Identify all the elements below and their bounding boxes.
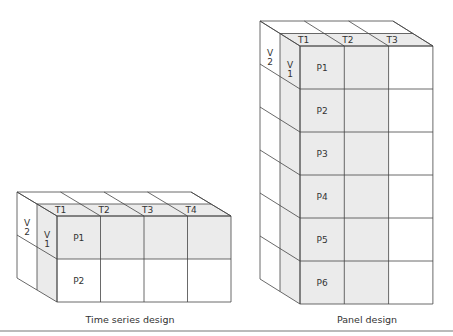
v1-label-num: 1 [44,239,50,249]
time-label: T2 [98,205,110,215]
time-label: T1 [297,35,309,45]
panel-label: P5 [317,235,328,245]
time-label: T4 [185,205,197,215]
time-series-caption: Time series design [85,314,175,325]
diagram: T1T2T3T4V1V2P1P2 T1T2T3V1V2P1P2P3P4P5P6 … [0,0,453,336]
panel-cube: T1T2T3V1V2P1P2P3P4P5P6 [260,21,433,304]
time-series-cube: T1T2T3T4V1V2P1P2 [17,192,231,302]
panel-label: P2 [73,276,84,286]
time-label: T3 [141,205,153,215]
panel-label: P3 [317,149,328,159]
v2-label-num: 2 [267,57,273,67]
time-label: T1 [54,205,66,215]
time-label: T3 [386,35,398,45]
panel-label: P2 [317,106,328,116]
panel-label: P6 [317,278,328,288]
panel-label: P4 [317,192,328,202]
panel-label: P1 [73,233,84,243]
panel-label: P1 [317,63,328,73]
v1-label-num: 1 [287,69,293,79]
time-label: T2 [341,35,353,45]
v2-label-num: 2 [24,227,30,237]
panel-caption: Panel design [337,314,397,325]
